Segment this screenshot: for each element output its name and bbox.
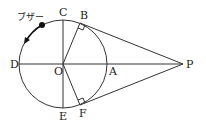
label-d: D [10,58,19,71]
label-e: E [59,110,67,123]
tangent-fp [80,64,183,105]
buzzer-arrow-path [26,25,42,41]
label-p: P [186,58,194,71]
segment-of [63,64,80,105]
tangent-bp [80,23,183,64]
label-c: C [59,6,67,19]
buzzer-dot-icon [39,22,45,28]
geometry-diagram: ブザー C B D O A P E F [0,0,206,129]
label-a: A [108,65,118,78]
segment-ob [63,23,80,64]
label-b: B [80,9,88,22]
label-o: O [54,65,63,78]
buzzer-label: ブザー [17,11,44,22]
label-f: F [79,107,87,120]
